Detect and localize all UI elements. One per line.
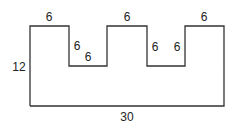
label-top-middle-segment: 6 — [124, 10, 131, 24]
label-top-left-segment: 6 — [46, 10, 53, 24]
label-left-height: 12 — [12, 60, 26, 74]
diagram-canvas: 6 6 6 6 6 6 6 12 30 — [0, 0, 237, 126]
label-notch1-left-side: 6 — [74, 39, 81, 53]
shape-outline — [30, 26, 224, 106]
label-bottom-width: 30 — [120, 110, 134, 124]
label-notch2-left-side: 6 — [152, 40, 159, 54]
label-notch2-right-side: 6 — [174, 40, 181, 54]
label-top-right-segment: 6 — [201, 10, 208, 24]
label-notch1-bottom: 6 — [85, 50, 92, 64]
